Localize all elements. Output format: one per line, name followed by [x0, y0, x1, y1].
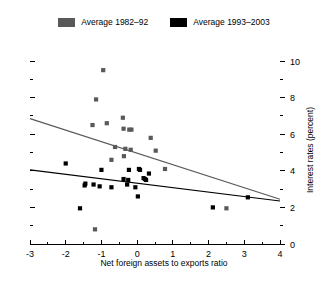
x-axis: -3-2-101234 [26, 240, 283, 259]
data-point [64, 161, 68, 165]
data-point [109, 158, 113, 162]
data-point [127, 168, 131, 172]
trend-line [30, 170, 280, 201]
data-point [99, 168, 103, 172]
data-point [122, 154, 126, 158]
data-point [138, 168, 142, 172]
data-point [105, 121, 109, 125]
data-point [144, 178, 148, 182]
y-tick-label: 10 [290, 57, 300, 67]
data-point [163, 167, 167, 171]
data-point [147, 171, 151, 175]
data-point [129, 148, 133, 152]
y-tick-label: 6 [290, 130, 295, 140]
data-point [78, 206, 82, 210]
x-tick-label: -3 [26, 249, 34, 259]
scatter-plot: 0246810 -3-2-101234 Net foreign assets t… [0, 0, 328, 288]
data-point [109, 185, 113, 189]
y-tick-label: 0 [290, 240, 295, 250]
data-point [121, 127, 125, 131]
data-point [94, 97, 98, 101]
data-point [133, 185, 137, 189]
data-point [93, 227, 97, 231]
data-point [136, 194, 140, 198]
right-axis-ticks: 0246810 [280, 57, 300, 250]
data-point [91, 182, 95, 186]
data-point [113, 145, 117, 149]
data-point [211, 205, 215, 209]
y-tick-label: 4 [290, 166, 295, 176]
data-point [83, 183, 87, 187]
data-point [121, 116, 125, 120]
trend-line [30, 119, 280, 200]
data-point [101, 68, 105, 72]
data-point [129, 128, 133, 132]
y-tick-label: 2 [290, 203, 295, 213]
left-axis-ticks [30, 61, 35, 244]
x-tick-label: 3 [242, 249, 247, 259]
y-tick-label: 8 [290, 93, 295, 103]
data-point [90, 123, 94, 127]
data-point [154, 149, 158, 153]
series-points-1982-92 [90, 68, 228, 231]
x-tick-label: 4 [277, 249, 282, 259]
chart-canvas: 0246810 -3-2-101234 Net foreign assets t… [0, 0, 328, 288]
data-point [98, 184, 102, 188]
data-point [121, 177, 125, 181]
data-point [126, 178, 130, 182]
y-axis-title: Interest rates (percent) [305, 107, 315, 193]
trend-lines-group [30, 119, 280, 201]
x-tick-label: -2 [62, 249, 70, 259]
data-point [246, 195, 250, 199]
data-point [149, 136, 153, 140]
chart-figure: Average 1982–92 Average 1993–2003 024681… [0, 0, 328, 288]
data-point [125, 182, 129, 186]
data-point [224, 206, 228, 210]
data-point [123, 147, 127, 151]
x-axis-title: Net foreign assets to exports ratio [100, 258, 227, 268]
